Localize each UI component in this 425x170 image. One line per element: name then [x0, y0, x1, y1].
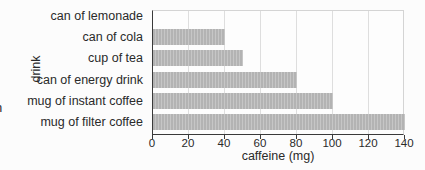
bar [153, 50, 243, 66]
x-tick-label: 140 [394, 137, 413, 149]
category-label: can of cola [0, 30, 148, 44]
x-tick-label: 40 [218, 137, 231, 149]
bar [153, 72, 297, 88]
x-tick-label: 80 [290, 137, 303, 149]
plot-area [152, 10, 404, 135]
x-tick-label: 60 [254, 137, 267, 149]
bar [153, 29, 225, 45]
x-tick-label: 120 [358, 137, 377, 149]
x-tick-label: 0 [149, 137, 155, 149]
category-label: cup of tea [0, 51, 148, 65]
x-tick-label: 20 [182, 137, 195, 149]
bar [153, 93, 333, 109]
category-label: can of energy drink [0, 73, 148, 87]
bar [153, 114, 405, 130]
x-tick-label: 100 [322, 137, 341, 149]
category-label: mug of instant coffee [0, 94, 148, 108]
category-label: mug of filter coffee [0, 115, 148, 129]
figure: n drink can of lemonadecan of colacup of… [0, 0, 425, 170]
category-label: can of lemonade [0, 9, 148, 23]
x-axis-title: caffeine (mg) [242, 149, 315, 163]
